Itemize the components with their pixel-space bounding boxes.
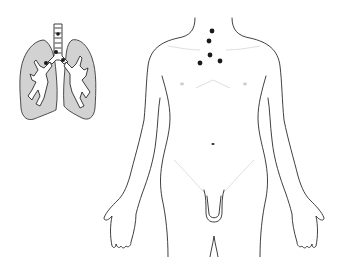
- lung-node-marker: [61, 58, 65, 62]
- left-nipple: [180, 83, 184, 86]
- genital-inner: [207, 196, 221, 218]
- clavicle-right: [226, 46, 260, 50]
- lung-node-marker: [56, 32, 60, 36]
- inguinal-left: [174, 160, 204, 192]
- clavicle-left: [168, 46, 200, 50]
- right-nipple: [243, 83, 247, 86]
- lung-node-marker: [44, 61, 48, 65]
- body-node-markers: [198, 29, 223, 66]
- node-marker: [218, 59, 223, 64]
- inner-thigh: [210, 236, 218, 257]
- lung-node-marker: [54, 50, 58, 54]
- node-marker: [210, 29, 215, 34]
- node-marker: [208, 53, 213, 58]
- pectoral-line: [196, 80, 230, 88]
- lungs-inset: [20, 24, 96, 120]
- genital-outline: [204, 190, 224, 222]
- inguinal-right: [224, 160, 254, 192]
- anatomy-figure: [0, 0, 340, 257]
- node-marker: [198, 61, 203, 66]
- navel: [211, 143, 214, 145]
- left-inner-arm: [161, 76, 171, 257]
- node-marker: [207, 39, 212, 44]
- right-inner-arm: [258, 76, 268, 257]
- diagram-canvas: [0, 0, 340, 257]
- left-outer-contour: [104, 18, 195, 248]
- right-outer-contour: [232, 18, 324, 248]
- body-outline: [104, 18, 324, 257]
